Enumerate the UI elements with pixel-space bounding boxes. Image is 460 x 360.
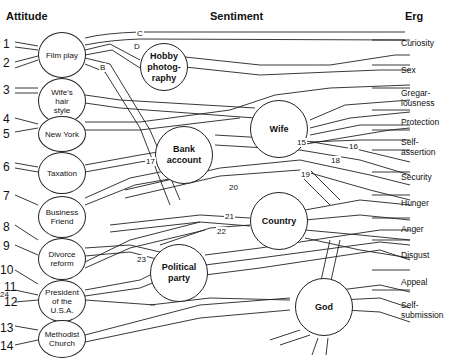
path-label-b: B [99, 63, 106, 72]
number-14: 14 [0, 340, 13, 352]
erg-anger: Anger [401, 224, 424, 234]
erg-disgust: Disgust [401, 250, 429, 260]
path-label-19: 19 [300, 170, 311, 179]
path-label-20: 20 [228, 183, 239, 192]
sentiment-bank-account[interactable]: Bank account [155, 126, 213, 184]
attitude-methodist-church[interactable]: Methodist Church [38, 320, 86, 358]
erg-appeal: Appeal [401, 277, 427, 287]
erg-security: Security [401, 172, 432, 182]
number-2: 2 [3, 57, 10, 69]
sentiment-header: Sentiment [210, 10, 263, 22]
path-label-d: D [133, 42, 141, 51]
path-label-18: 18 [330, 156, 341, 165]
path-label-15: 15 [296, 138, 307, 147]
attitude-film-play[interactable]: Film play [38, 32, 86, 78]
path-label-22: 22 [216, 227, 227, 236]
sentiment-wife[interactable]: Wife [250, 100, 308, 158]
number-3: 3 [3, 84, 10, 96]
number-9: 9 [3, 240, 10, 252]
attitude-header: Attitude [6, 10, 48, 22]
number-7: 7 [3, 190, 10, 202]
number-24: 24 [0, 290, 9, 299]
attitude-taxation[interactable]: Taxation [38, 152, 86, 194]
path-label-16: 16 [348, 142, 359, 151]
erg-self-submission: Self-submission [401, 300, 457, 320]
attitude-new-york[interactable]: New York [38, 116, 86, 152]
number-6: 6 [3, 161, 10, 173]
sentiment-political-party[interactable]: Political party [150, 244, 208, 302]
erg-self-assertion: Self-assertion [401, 137, 447, 157]
erg-sex: Sex [401, 65, 416, 75]
erg-gregariousness: Gregar-iousness [401, 88, 453, 108]
erg-protection: Protection [401, 117, 439, 127]
attitude-business-friend[interactable]: Business Friend [38, 196, 86, 238]
erg-hunger: Hunger [401, 198, 429, 208]
number-1: 1 [3, 38, 10, 50]
path-label-17: 17 [145, 157, 156, 166]
sentiment-country[interactable]: Country [250, 192, 308, 250]
number-13: 13 [0, 322, 13, 334]
path-label-c: C [136, 29, 144, 38]
path-label-23: 23 [136, 255, 147, 264]
attitude-divorce-reform[interactable]: Divorce reform [38, 238, 86, 280]
number-5: 5 [3, 128, 10, 140]
attitude-president-usa[interactable]: President of the U.S.A. [38, 280, 86, 322]
erg-header: Erg [405, 10, 423, 22]
path-label-21: 21 [224, 212, 235, 221]
number-4: 4 [3, 113, 10, 125]
sentiment-hobby-photography[interactable]: Hobby photog-raphy [140, 43, 188, 91]
number-8: 8 [3, 221, 10, 233]
number-10: 10 [0, 264, 13, 276]
erg-curiosity: Curiosity [401, 38, 434, 48]
sentiment-god[interactable]: God [295, 278, 353, 336]
